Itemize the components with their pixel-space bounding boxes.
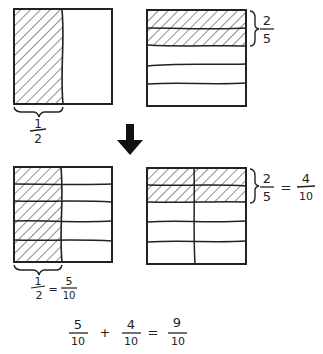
eq-equals: = [148,325,159,340]
label-rhs-den: 10 [63,290,76,301]
eq-b-den: 10 [124,335,138,348]
label-den: 2 [34,132,42,146]
eq-plus: + [100,325,111,340]
label-num: 2 [263,13,271,28]
brace [14,107,63,117]
brace [250,11,259,46]
eq-a-num: 5 [74,317,82,332]
label-lhs-den: 2 [36,289,43,302]
brace [14,265,62,275]
label-rhs-den: 10 [299,190,313,203]
bottom-right-tenths-model: 2 5 = 4 10 [147,168,315,264]
top-left-half-model: 1 2 [14,9,112,146]
label-lhs-num: 2 [263,171,271,186]
shaded-five-tenths [15,168,62,262]
label-rhs-num: 4 [302,171,310,186]
label-lhs-den: 5 [263,189,271,204]
label-eq: = [48,283,57,296]
eq-b-num: 4 [127,317,135,332]
brace [250,169,259,203]
down-arrow-icon [117,124,143,155]
eq-c-num: 9 [173,315,181,330]
fraction-diagram: 1 2 2 5 1 2 = 5 10 [0,0,323,354]
eq-a-den: 10 [71,335,85,348]
label-num: 1 [34,117,42,131]
label-eq: = [281,180,292,195]
shaded-half [15,10,63,104]
sum-equation: 5 10 + 4 10 = 9 10 [69,315,187,348]
eq-c-den: 10 [171,335,185,348]
label-rhs-num: 5 [66,275,73,288]
label-den: 5 [263,31,271,46]
top-right-fifths-model: 2 5 [147,10,274,106]
bottom-left-tenths-model: 1 2 = 5 10 [14,167,112,302]
